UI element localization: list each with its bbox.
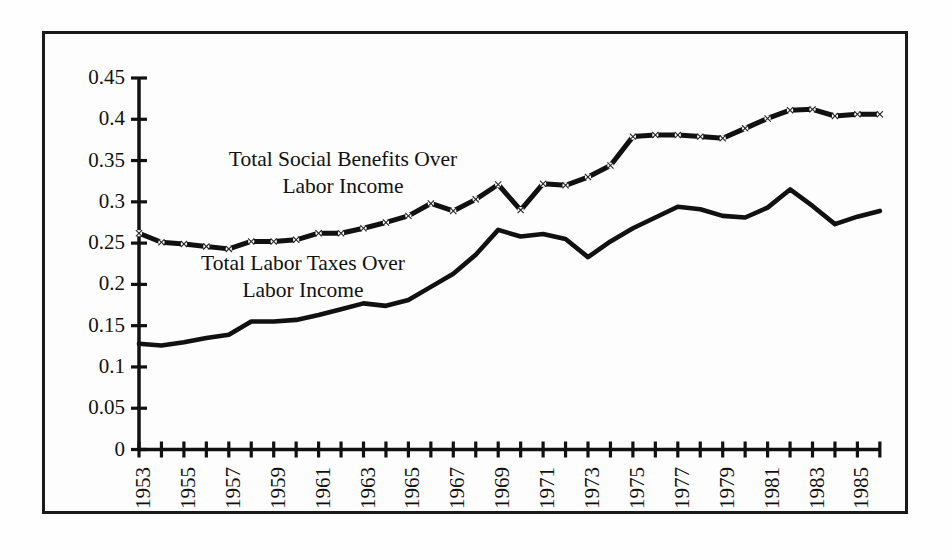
- series-label-labor-taxes: Total Labor Taxes Over Labor Income: [158, 250, 448, 304]
- series-marker: [832, 113, 838, 119]
- series-group: [136, 106, 883, 345]
- taxes-label-line2: Labor Income: [158, 277, 448, 304]
- chart-figure: 00.050.10.150.20.250.30.350.40.45 195319…: [0, 0, 951, 560]
- y-tick-label: 0.2: [55, 271, 125, 296]
- x-tick-label: 1979: [715, 467, 740, 509]
- series-marker: [765, 115, 771, 121]
- series-marker: [271, 238, 277, 244]
- series-marker: [495, 181, 501, 187]
- x-tick-label: 1953: [131, 467, 156, 509]
- series-marker: [854, 111, 860, 117]
- series-marker: [585, 174, 591, 180]
- x-tick-label: 1971: [535, 467, 560, 509]
- x-tick-label: 1981: [760, 467, 785, 509]
- taxes-label-line1: Total Labor Taxes Over: [158, 250, 448, 277]
- x-tick-label: 1973: [580, 467, 605, 509]
- series-marker: [360, 225, 366, 231]
- x-tick-label: 1959: [266, 467, 291, 509]
- series-marker: [675, 132, 681, 138]
- x-tick-label: 1985: [849, 467, 874, 509]
- series-marker: [809, 106, 815, 112]
- y-tick-label: 0: [55, 437, 125, 462]
- y-tick-label: 0.45: [55, 65, 125, 90]
- series-marker: [405, 213, 411, 219]
- series-marker: [293, 237, 299, 243]
- x-tick-label: 1983: [805, 467, 830, 509]
- benefits-label-line2: Labor Income: [198, 173, 488, 200]
- series-marker: [652, 132, 658, 138]
- series-marker: [428, 200, 434, 206]
- series-marker: [562, 182, 568, 188]
- x-tick-label: 1961: [311, 467, 336, 509]
- x-tick-label: 1965: [400, 467, 425, 509]
- y-tick-label: 0.05: [55, 395, 125, 420]
- benefits-label-line1: Total Social Benefits Over: [198, 146, 488, 173]
- series-marker: [787, 107, 793, 113]
- series-marker: [450, 208, 456, 214]
- y-tick-label: 0.35: [55, 148, 125, 173]
- series-marker: [383, 219, 389, 225]
- series-marker: [518, 207, 524, 213]
- series-marker: [181, 241, 187, 247]
- series-marker: [697, 134, 703, 140]
- series-marker: [136, 230, 142, 236]
- x-tick-label: 1969: [490, 467, 515, 509]
- x-tick-label: 1955: [176, 467, 201, 509]
- series-marker: [720, 135, 726, 141]
- x-tick-label: 1957: [221, 467, 246, 509]
- series-marker: [742, 125, 748, 131]
- series-marker: [607, 162, 613, 168]
- x-tick-label: 1977: [670, 467, 695, 509]
- series-marker: [877, 111, 883, 117]
- series-marker: [316, 230, 322, 236]
- series-marker: [338, 230, 344, 236]
- x-tick-label: 1967: [445, 467, 470, 509]
- series-marker: [630, 134, 636, 140]
- y-tick-label: 0.1: [55, 354, 125, 379]
- series-marker: [248, 238, 254, 244]
- series-marker: [203, 243, 209, 249]
- y-tick-label: 0.15: [55, 313, 125, 338]
- y-tick-label: 0.25: [55, 230, 125, 255]
- y-tick-label: 0.4: [55, 106, 125, 131]
- y-tick-label: 0.3: [55, 189, 125, 214]
- x-tick-label: 1975: [625, 467, 650, 509]
- series-marker: [540, 181, 546, 187]
- series-label-social-benefits: Total Social Benefits Over Labor Income: [198, 146, 488, 200]
- series-marker: [158, 239, 164, 245]
- x-tick-label: 1963: [356, 467, 381, 509]
